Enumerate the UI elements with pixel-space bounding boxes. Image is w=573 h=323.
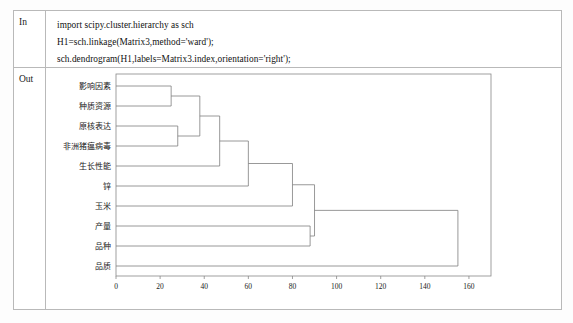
x-axis-tick-label: 40	[200, 282, 208, 291]
dendrogram-link	[116, 164, 292, 207]
dendrogram-leaf-label: 非洲猪瘟病毒	[63, 141, 111, 151]
output-figure-cell: 影响因素种质资源原核表达非洲猪瘟病毒生长性能锌玉米产量品种品质020406080…	[46, 68, 561, 309]
leaf-label-group: 影响因素种质资源原核表达非洲猪瘟病毒生长性能锌玉米产量品种品质	[63, 81, 111, 271]
dendrogram-links	[116, 86, 458, 266]
dendrogram-leaf-label: 种质资源	[79, 101, 111, 111]
x-axis-tick-label: 140	[419, 282, 431, 291]
x-axis-tick-label: 60	[245, 282, 253, 291]
code-line-3: sch.dendrogram(H1,labels=Matrix3.index,o…	[57, 51, 561, 68]
dendrogram-leaf-label: 品种	[95, 241, 111, 251]
dendrogram-plot: 影响因素种质资源原核表达非洲猪瘟病毒生长性能锌玉米产量品种品质020406080…	[46, 68, 561, 309]
x-axis-tick-label: 0	[114, 282, 118, 291]
input-prompt-label: In	[14, 11, 46, 67]
dendrogram-leaf-label: 玉米	[95, 201, 111, 211]
dendrogram-leaf-label: 锌	[103, 181, 111, 191]
dendrogram-leaf-label: 原核表达	[79, 121, 111, 131]
code-block: import scipy.cluster.hierarchy as sch H1…	[46, 11, 561, 68]
notebook-input-row: In import scipy.cluster.hierarchy as sch…	[14, 11, 561, 68]
dendrogram-leaf-label: 影响因素	[79, 81, 111, 91]
dendrogram-link	[116, 210, 458, 266]
dendrogram-link	[116, 126, 178, 146]
page-background: In import scipy.cluster.hierarchy as sch…	[0, 0, 573, 323]
dendrogram-leaf-label: 生长性能	[79, 161, 111, 171]
notebook-output-row: Out 影响因素种质资源原核表达非洲猪瘟病毒生长性能锌玉米产量品种品质02040…	[14, 68, 561, 309]
dendrogram-link	[292, 185, 314, 236]
dendrogram-link	[116, 86, 171, 106]
code-line-1: import scipy.cluster.hierarchy as sch	[57, 17, 561, 34]
x-axis-tick-label: 20	[156, 282, 164, 291]
input-code-cell[interactable]: import scipy.cluster.hierarchy as sch H1…	[46, 11, 561, 67]
dendrogram-leaf-label: 产量	[95, 221, 111, 231]
x-axis-tick-label: 160	[463, 282, 475, 291]
x-axis-tick-label: 120	[375, 282, 387, 291]
dendrogram-link	[116, 141, 248, 186]
code-line-2: H1=sch.linkage(Matrix3,method='ward');	[57, 34, 561, 51]
dendrogram-link	[116, 116, 220, 166]
notebook-cell-table: In import scipy.cluster.hierarchy as sch…	[13, 10, 562, 310]
x-axis-tick-label: 100	[331, 282, 343, 291]
output-prompt-label: Out	[14, 68, 46, 309]
dendrogram-leaf-label: 品质	[95, 261, 111, 271]
dendrogram-link	[171, 96, 200, 136]
x-axis-tick-label: 80	[289, 282, 297, 291]
dendrogram-svg: 影响因素种质资源原核表达非洲猪瘟病毒生长性能锌玉米产量品种品质020406080…	[46, 68, 561, 308]
x-axis: 020406080100120140160	[114, 276, 475, 291]
dendrogram-link	[116, 226, 310, 246]
